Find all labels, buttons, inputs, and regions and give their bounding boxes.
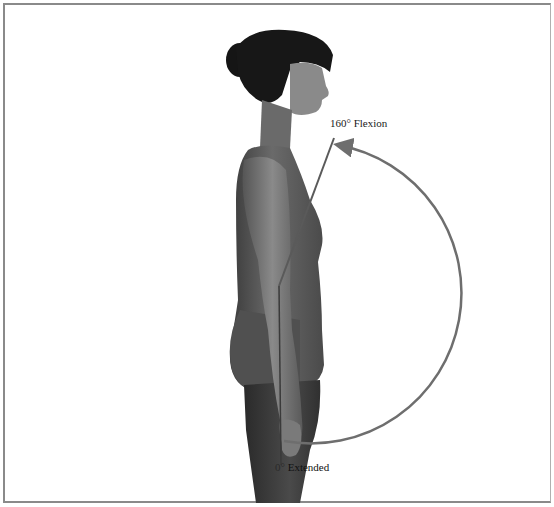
human-figure	[226, 30, 333, 503]
hand	[280, 420, 301, 457]
extended-text: Extended	[285, 461, 329, 473]
flexion-label: 160° Flexion	[330, 117, 387, 129]
extended-degree: 0°	[275, 461, 285, 473]
extended-label: 0° Extended	[275, 461, 329, 473]
face	[290, 63, 329, 115]
neck	[260, 100, 292, 148]
flexion-diagram	[0, 0, 554, 507]
